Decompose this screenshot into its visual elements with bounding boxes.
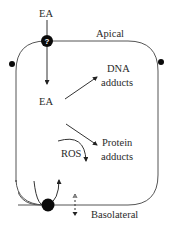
dna-adduct-arrow — [65, 77, 97, 99]
ros-label: ROS — [61, 148, 82, 159]
left-junction-dot — [9, 61, 15, 67]
cell-diagram: ? EA Apical EA DNA adducts Protein adduc… — [0, 0, 173, 232]
apical-transporter: ? — [41, 35, 53, 47]
apical-label: Apical — [96, 28, 124, 39]
ea-intracellular-label: EA — [39, 96, 53, 107]
ea-extracellular-label: EA — [39, 8, 53, 19]
protein-label-line1: Protein — [102, 137, 133, 148]
protein-adduct-arrow — [66, 124, 97, 145]
question-mark-label: ? — [45, 37, 50, 46]
right-junction-dot — [158, 59, 164, 65]
dna-label-line2: adducts — [101, 77, 133, 88]
dna-label-line1: DNA — [107, 63, 130, 74]
protein-label-line2: adducts — [101, 151, 133, 162]
basolateral-transporter — [42, 199, 55, 212]
basolateral-label: Basolateral — [91, 209, 138, 220]
cell-membrane — [16, 41, 158, 205]
